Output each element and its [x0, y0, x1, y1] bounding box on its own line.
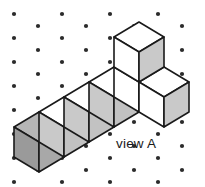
- grid-dot: [12, 60, 16, 64]
- grid-dot: [156, 156, 160, 160]
- view-label: view A: [116, 136, 156, 151]
- grid-dot: [60, 36, 64, 40]
- grid-dot: [108, 36, 112, 40]
- grid-dot: [12, 180, 16, 184]
- grid-dot: [132, 120, 136, 124]
- grid-dot: [180, 144, 184, 148]
- grid-dot: [108, 180, 112, 184]
- grid-dot: [180, 48, 184, 52]
- grid-dot: [108, 132, 112, 136]
- grid-dot: [84, 48, 88, 52]
- grid-dot: [60, 12, 64, 16]
- grid-dot: [156, 12, 160, 16]
- grid-dot: [36, 48, 40, 52]
- grid-dot: [36, 72, 40, 76]
- grid-dot: [132, 168, 136, 172]
- grid-dot: [36, 96, 40, 100]
- grid-dot: [108, 12, 112, 16]
- grid-dot: [108, 60, 112, 64]
- grid-dot: [180, 120, 184, 124]
- grid-dot: [12, 36, 16, 40]
- grid-dot: [12, 108, 16, 112]
- cube-group: [14, 22, 189, 172]
- grid-dot: [60, 60, 64, 64]
- figure-container: view A: [0, 0, 205, 187]
- grid-dot: [156, 180, 160, 184]
- grid-dot: [180, 72, 184, 76]
- grid-dot: [84, 72, 88, 76]
- isometric-cube-figure: view A: [0, 0, 205, 187]
- grid-dot: [60, 180, 64, 184]
- grid-dot: [156, 132, 160, 136]
- grid-dot: [180, 24, 184, 28]
- grid-dot: [12, 12, 16, 16]
- grid-dot: [108, 156, 112, 160]
- grid-dot: [180, 168, 184, 172]
- grid-dot: [12, 84, 16, 88]
- grid-dot: [84, 24, 88, 28]
- grid-dot: [36, 24, 40, 28]
- grid-dot: [84, 168, 88, 172]
- grid-dot: [60, 84, 64, 88]
